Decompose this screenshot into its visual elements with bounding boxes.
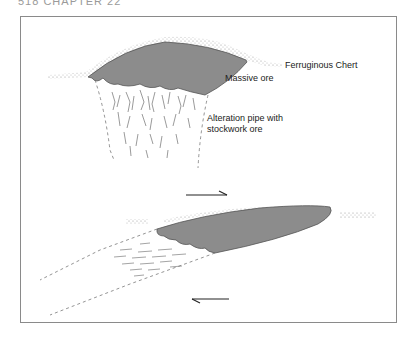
chert-patch-right [340, 212, 376, 218]
sheared-ore-body [157, 206, 331, 253]
ore-deposit-diagram: Ferruginous Chert Massive ore Alteration… [0, 0, 414, 343]
sheared-pipe-upper-boundary [40, 229, 157, 280]
alteration-pipe-left-boundary [95, 80, 114, 160]
label-ferruginous-chert: Ferruginous Chert [285, 60, 358, 70]
upper-panel: Ferruginous Chert Massive ore Alteration… [48, 37, 358, 168]
chert-patch-left [126, 219, 148, 224]
flattened-veins [114, 243, 186, 276]
arrow-right [186, 191, 227, 195]
sheared-pipe-lower-boundary [50, 253, 215, 315]
label-alteration-line2: stockwork ore [207, 124, 263, 134]
label-massive-ore: Massive ore [225, 73, 274, 83]
label-alteration-line1: Alteration pipe with [207, 113, 283, 123]
arrow-left [192, 299, 229, 303]
stockwork-veins [112, 90, 195, 158]
